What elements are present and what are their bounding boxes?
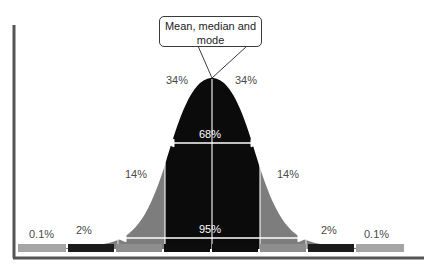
callout-line-2: mode — [160, 33, 261, 47]
label-2-percent-left: 2% — [76, 224, 92, 236]
label-14-percent-right: 14% — [277, 168, 299, 180]
mean-median-mode-callout: Mean, median and mode — [159, 16, 262, 47]
label-68-percent: 68% — [199, 128, 221, 140]
figure-canvas: Mean, median and mode 34% 34% 68% 14% 14… — [0, 0, 428, 270]
label-34-percent-left: 34% — [166, 74, 188, 86]
label-0-1-percent-left: 0.1% — [29, 228, 54, 240]
callout-line-1: Mean, median and — [160, 19, 261, 33]
label-95-percent: 95% — [199, 223, 221, 235]
label-14-percent-left: 14% — [125, 168, 147, 180]
label-0-1-percent-right: 0.1% — [364, 228, 389, 240]
label-2-percent-right: 2% — [321, 224, 337, 236]
label-34-percent-right: 34% — [235, 74, 257, 86]
